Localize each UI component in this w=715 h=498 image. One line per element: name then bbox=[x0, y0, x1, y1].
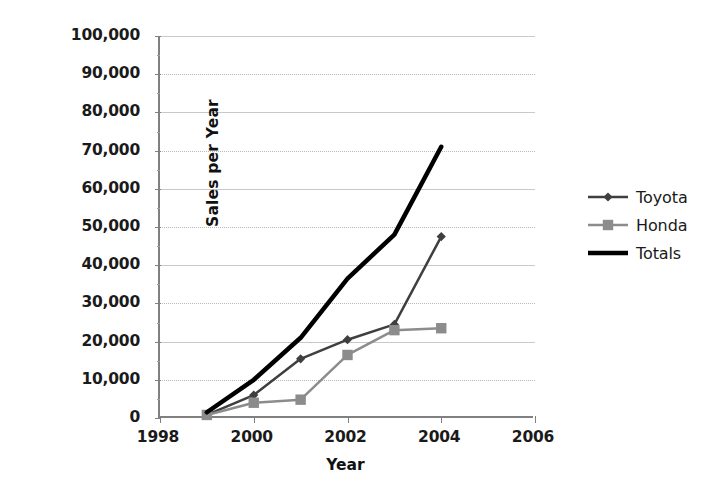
data-point-marker bbox=[342, 350, 352, 360]
x-axis-title: Year bbox=[158, 456, 533, 474]
y-tick-label: 60,000 bbox=[20, 181, 140, 197]
y-tick-label: 20,000 bbox=[20, 334, 140, 350]
y-tick-label: 50,000 bbox=[20, 219, 140, 235]
x-tick-label: 1998 bbox=[113, 428, 203, 446]
legend-label: Toyota bbox=[630, 188, 688, 207]
y-tick-label: 70,000 bbox=[20, 143, 140, 159]
y-axis-title: Sales per Year bbox=[204, 63, 222, 263]
legend-marker bbox=[603, 192, 612, 201]
legend-marker bbox=[603, 220, 613, 230]
y-tick-label: 100,000 bbox=[20, 28, 140, 44]
data-point-marker bbox=[295, 394, 305, 404]
x-tick-label: 2006 bbox=[488, 428, 578, 446]
data-point-marker bbox=[249, 398, 259, 408]
series-honda bbox=[202, 323, 447, 420]
y-tick-label: 90,000 bbox=[20, 66, 140, 82]
legend-item-honda[interactable]: Honda bbox=[586, 211, 711, 239]
y-tick-label: 30,000 bbox=[20, 295, 140, 311]
x-tick-label: 2000 bbox=[207, 428, 297, 446]
x-tick-label: 2002 bbox=[301, 428, 391, 446]
legend-swatch-totals-icon bbox=[586, 243, 630, 263]
x-tick-label: 2004 bbox=[394, 428, 484, 446]
y-tick-label: 40,000 bbox=[20, 257, 140, 273]
legend-swatch-honda-icon bbox=[586, 215, 630, 235]
series-line bbox=[207, 147, 441, 412]
legend-swatch-toyota-icon bbox=[586, 187, 630, 207]
legend-item-totals[interactable]: Totals bbox=[586, 239, 711, 267]
legend-label: Totals bbox=[630, 244, 681, 263]
y-axis-tick-labels: 010,00020,00030,00040,00050,00060,00070,… bbox=[18, 0, 140, 498]
legend-item-toyota[interactable]: Toyota bbox=[586, 183, 711, 211]
y-tick-label: 10,000 bbox=[20, 372, 140, 388]
data-point-marker bbox=[436, 323, 446, 333]
x-tick-mark bbox=[535, 416, 536, 423]
y-tick-label: 80,000 bbox=[20, 104, 140, 120]
plot-area: Sales per Year bbox=[158, 36, 533, 418]
data-point-marker bbox=[389, 325, 399, 335]
legend-label: Honda bbox=[630, 216, 687, 235]
series-line bbox=[207, 328, 441, 415]
chart-page: 010,00020,00030,00040,00050,00060,00070,… bbox=[0, 0, 715, 498]
y-tick-label: 0 bbox=[20, 410, 140, 426]
chart-legend: ToyotaHondaTotals bbox=[586, 183, 711, 267]
data-point-marker bbox=[437, 232, 446, 241]
series-totals bbox=[207, 147, 441, 412]
data-point-marker bbox=[343, 335, 352, 344]
